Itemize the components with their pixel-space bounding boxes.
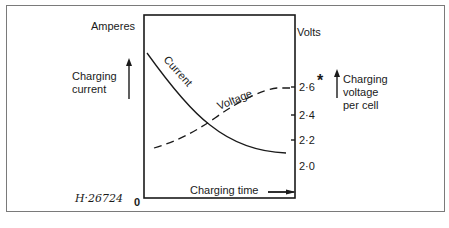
time-right-arrow-icon [0,0,449,228]
figure-reference-code: H·26724 [75,193,123,205]
